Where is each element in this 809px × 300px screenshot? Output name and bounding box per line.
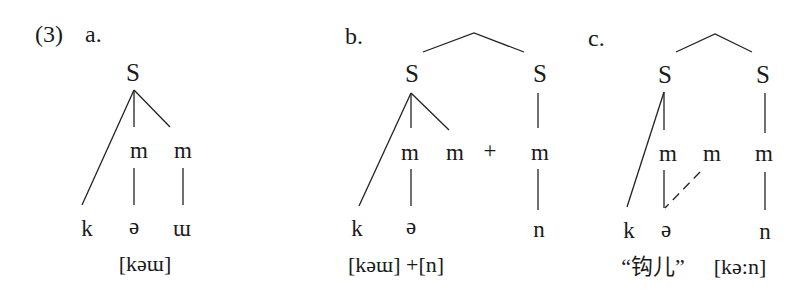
panel-c-label: c. bbox=[588, 26, 605, 50]
b-branch-s1-m2 bbox=[411, 93, 449, 130]
c-segment-n: n bbox=[759, 220, 771, 243]
b-segment-n: n bbox=[533, 218, 545, 241]
b-mora-3: m bbox=[531, 141, 549, 164]
a-mora-1: m bbox=[130, 139, 148, 162]
c-link-m2-schwa-dashed bbox=[665, 172, 700, 208]
b-syllable-node-1: S bbox=[405, 61, 419, 86]
b-word-arc bbox=[423, 33, 524, 52]
a-segment-k: k bbox=[81, 217, 93, 240]
c-syllable-node-1: S bbox=[658, 62, 672, 87]
c-gloss: “钩儿” bbox=[621, 256, 685, 278]
c-word-arc bbox=[676, 34, 752, 52]
b-segment-schwa: ə bbox=[406, 215, 416, 238]
b-transcription: [kəɯ] +[n] bbox=[348, 254, 444, 276]
a-branch-s-m2 bbox=[134, 90, 170, 127]
example-number: (3) bbox=[35, 22, 63, 46]
a-syllable-node: S bbox=[126, 60, 140, 85]
c-transcription: [kə:n] bbox=[714, 256, 767, 278]
c-mora-3: m bbox=[755, 142, 773, 165]
a-mora-2: m bbox=[174, 139, 192, 162]
c-mora-1: m bbox=[659, 142, 677, 165]
panel-b-label: b. bbox=[345, 24, 363, 48]
a-transcription: [kəɯ] bbox=[119, 253, 172, 275]
a-branch-s-k bbox=[82, 90, 134, 205]
b-plus-sign: + bbox=[484, 139, 497, 162]
c-mora-2: m bbox=[703, 142, 721, 165]
b-mora-1: m bbox=[401, 141, 419, 164]
b-syllable-node-2: S bbox=[533, 61, 547, 86]
c-syllable-node-2: S bbox=[756, 62, 770, 87]
c-segment-k: k bbox=[623, 219, 635, 242]
a-segment-u: ɯ bbox=[173, 217, 191, 240]
c-segment-schwa: ə bbox=[661, 218, 671, 241]
panel-a-label: a. bbox=[85, 22, 102, 46]
b-segment-k: k bbox=[351, 217, 363, 240]
b-mora-2: m bbox=[446, 141, 464, 164]
a-segment-schwa: ə bbox=[129, 215, 139, 238]
